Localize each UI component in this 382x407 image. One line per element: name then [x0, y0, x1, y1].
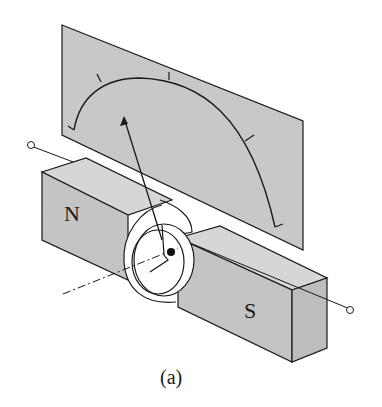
south-pole-label: S	[244, 298, 256, 323]
coil	[124, 200, 194, 302]
left-terminal-icon	[28, 142, 35, 149]
right-terminal-icon	[347, 307, 354, 314]
pivot	[167, 248, 175, 256]
figure-caption: (a)	[160, 366, 182, 389]
galvanometer-diagram: N S (a)	[0, 0, 382, 407]
north-pole-label: N	[64, 201, 80, 226]
south-magnet: S	[178, 226, 327, 362]
